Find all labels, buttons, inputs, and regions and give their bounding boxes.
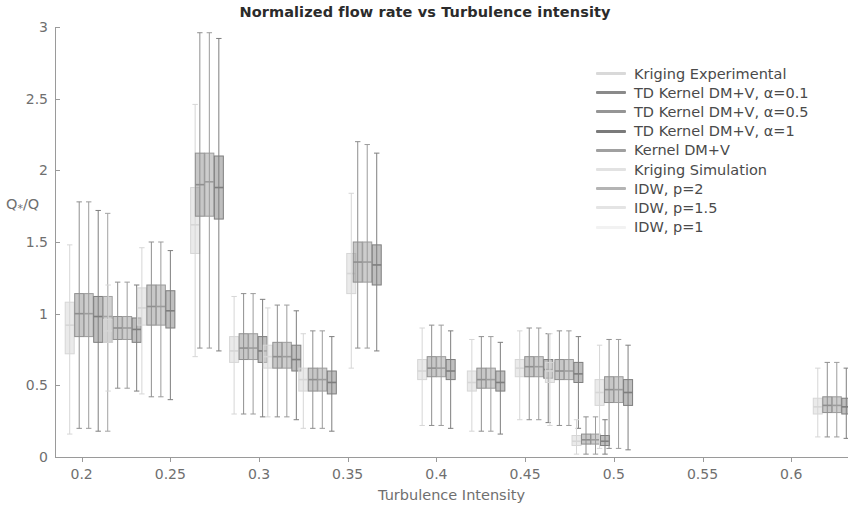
legend-swatch-icon [596,130,626,133]
x-tick-label: 0.3 [229,466,289,482]
boxplot-box [156,242,165,397]
boxplot-box [205,33,214,348]
boxplot-box [486,337,495,432]
boxplot-iqr-box [477,368,486,388]
legend-item-label: Kernel DM+V [634,142,730,158]
legend-item[interactable]: IDW, p=1.5 [596,198,846,217]
boxplot-group [137,242,175,400]
x-tick-mark [436,457,437,462]
legend-item[interactable]: IDW, p=1 [596,218,846,237]
legend-item[interactable]: Kriging Simulation [596,160,846,179]
x-tick-label: 0.6 [761,466,821,482]
boxplot-box [582,417,591,454]
boxplot-box [75,202,84,428]
legend-item[interactable]: TD Kernel DM+V, α=0.1 [596,83,846,102]
x-tick-label: 0.55 [673,466,733,482]
boxplot-box [574,337,583,429]
boxplot-iqr-box [230,337,239,363]
boxplot-box [137,248,146,394]
boxplot-box [842,368,848,438]
boxplot-iqr-box [486,368,495,388]
boxplot-box [353,142,362,348]
boxplot-iqr-box [555,360,564,380]
boxplot-iqr-box [156,285,165,325]
boxplot-iqr-box [65,302,74,354]
boxplot-box [230,296,239,414]
boxplot-box [327,337,336,432]
boxplot-box [214,38,223,350]
boxplot-group [195,33,223,351]
x-axis-title: Turbulence Intensity [55,487,848,503]
boxplot-iqr-box [205,153,214,216]
legend-item[interactable]: Kernel DM+V [596,141,846,160]
boxplot-box [437,325,446,425]
chart-figure: Normalized flow rate vs Turbulence inten… [0,0,850,510]
boxplot-group [595,339,633,449]
boxplot-box [282,305,291,417]
boxplot-box [595,345,604,448]
legend: Kriging ExperimentalTD Kernel DM+V, α=0.… [596,64,846,237]
legend-item-label: IDW, p=1.5 [634,200,717,216]
boxplot-box [601,420,610,454]
boxplot-group [230,294,268,417]
boxplot-iqr-box [564,360,573,380]
boxplot-group [572,417,610,454]
legend-swatch-icon [596,206,626,209]
boxplot-iqr-box [574,362,583,382]
boxplot-group [813,362,848,438]
boxplot-box [292,311,301,420]
boxplot-box [467,339,476,431]
boxplot-group [299,331,337,431]
boxplot-iqr-box [427,357,436,377]
y-axis-title-text: Q [6,196,17,212]
y-tick-label: 2 [2,162,48,178]
legend-item-label: Kriging Simulation [634,162,767,178]
boxplot-iqr-box [467,371,476,391]
legend-item[interactable]: TD Kernel DM+V, α=1 [596,122,846,141]
boxplot-box [65,245,74,434]
x-tick-label: 0.35 [318,466,378,482]
legend-swatch-icon [596,168,626,171]
boxplot-box [624,345,633,450]
boxplot-box [273,305,282,417]
x-tick-mark [170,457,171,462]
boxplot-box [525,328,534,420]
legend-item[interactable]: Kriging Experimental [596,64,846,83]
boxplot-iqr-box [147,285,156,325]
boxplot-box [427,325,436,425]
boxplot-box [363,145,372,349]
boxplot-iqr-box [545,362,554,382]
y-tick-label: 1 [2,306,48,322]
boxplot-box [123,282,132,388]
boxplot-box [263,308,272,417]
boxplot-box [249,294,258,414]
legend-swatch-icon [596,110,626,113]
legend-swatch-icon [596,149,626,152]
legend-item[interactable]: TD Kernel DM+V, α=0.5 [596,102,846,121]
boxplot-box [605,339,614,448]
legend-item[interactable]: IDW, p=2 [596,179,846,198]
y-tick-label: 3 [2,19,48,35]
boxplot-box [813,368,822,437]
boxplot-box [545,334,554,426]
boxplot-iqr-box [292,345,301,371]
y-tick-mark [55,457,60,458]
legend-item-label: TD Kernel DM+V, α=0.5 [634,104,809,120]
boxplot-box [239,294,248,414]
boxplot-box [515,331,524,420]
x-tick-mark [259,457,260,462]
legend-swatch-icon [596,226,626,229]
boxplot-group [191,104,200,356]
legend-item-label: IDW, p=2 [634,181,704,197]
boxplot-group [418,325,456,428]
legend-item-label: TD Kernel DM+V, α=1 [634,123,795,139]
boxplot-box [147,242,156,397]
legend-swatch-icon [596,187,626,190]
boxplot-box [372,153,381,351]
boxplot-box [564,331,573,426]
boxplot-iqr-box [75,294,84,337]
x-tick-mark [614,457,615,462]
boxplot-iqr-box [94,296,103,342]
boxplot-group [353,142,381,351]
x-tick-label: 0.2 [52,466,112,482]
